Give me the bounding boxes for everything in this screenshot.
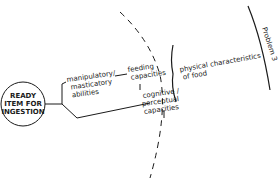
center-node-line-3: INGESTION (1, 108, 44, 116)
concept-diagram: READY ITEM FOR INGESTION manipulatory/ m… (0, 0, 280, 184)
center-node-line-2: ITEM FOR (4, 100, 42, 108)
center-node-line-1: READY (10, 92, 37, 100)
lower-branch-line (62, 103, 150, 118)
upper-branch-tick (62, 82, 66, 84)
problem-label: Problem 3 (260, 26, 279, 62)
feeding-connector (115, 74, 127, 76)
food-label-line-1: physical characteristics (179, 52, 262, 74)
